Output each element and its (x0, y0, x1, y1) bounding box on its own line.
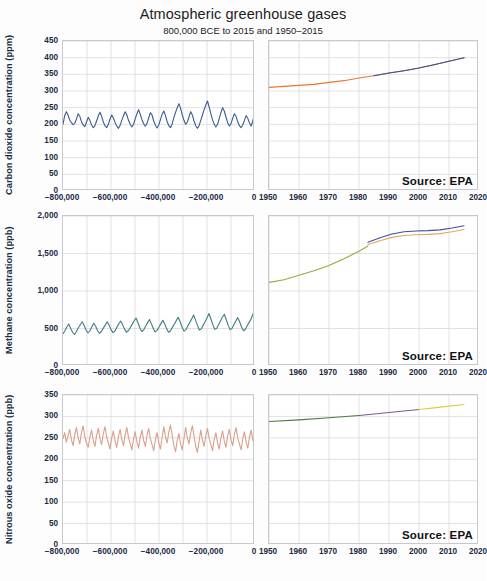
x-tick-label: 1990 (379, 547, 397, 556)
x-tick-label: 0 (252, 368, 257, 377)
x-tick-label: −400,000 (141, 547, 175, 556)
x-tick-label: −800,000 (45, 368, 79, 377)
chart-row-methane: Methane concentration (ppb) 05001,0001,5… (0, 215, 486, 391)
y-axis-label-methane: Methane concentration (ppb) (2, 215, 16, 365)
x-tick-label: −600,000 (93, 368, 127, 377)
x-tick-label: 2010 (439, 547, 457, 556)
x-tick-label: 1980 (349, 547, 367, 556)
x-tick-label: 1970 (319, 193, 337, 202)
y-tick-label: 100 (44, 497, 58, 506)
x-axis-ticks-nitrous-oxide-right: 19501960197019801990200020102020 (268, 545, 478, 561)
chart-row-co2: Carbon dioxide concentration (ppm) 05010… (0, 40, 486, 216)
x-tick-label: 0 (252, 547, 257, 556)
x-tick-label: 1990 (379, 368, 397, 377)
y-tick-label: 500 (44, 323, 58, 332)
x-tick-label: 1960 (289, 368, 307, 377)
panel-nitrous-oxide-modern: Source: EPA (268, 394, 478, 544)
x-tick-label: 1970 (319, 547, 337, 556)
y-tick-label: 2,000 (38, 211, 59, 220)
x-axis-ticks-co2-right: 19501960197019801990200020102020 (268, 191, 478, 207)
x-tick-label: 2000 (409, 547, 427, 556)
y-tick-label: 350 (44, 69, 58, 78)
panel-co2-modern: Source: EPA (268, 40, 478, 190)
x-axis-ticks-methane-left: −800,000−600,000−400,000−200,0000 (62, 366, 254, 382)
y-axis-ticks-co2: 050100150200250300350400450 (16, 40, 60, 190)
x-tick-label: −400,000 (141, 193, 175, 202)
chart-row-nitrous-oxide: Nitrous oxide concentration (ppb) 050100… (0, 394, 486, 570)
x-tick-label: 2010 (439, 193, 457, 202)
y-tick-label: 1,500 (38, 248, 59, 257)
x-tick-label: 2010 (439, 368, 457, 377)
plot-co2-icecore (63, 41, 254, 190)
y-tick-label: 300 (44, 86, 58, 95)
plot-nitrous-oxide-icecore (63, 395, 254, 544)
x-tick-label: 1980 (349, 368, 367, 377)
y-tick-label: 200 (44, 454, 58, 463)
page-subtitle: 800,000 BCE to 2015 and 1950–2015 (0, 25, 486, 36)
source-label-nitrous-oxide: Source: EPA (402, 529, 473, 541)
y-axis-label-nitrous-oxide: Nitrous oxide concentration (ppb) (2, 394, 16, 544)
x-tick-label: 2000 (409, 193, 427, 202)
x-tick-label: 2000 (409, 368, 427, 377)
y-tick-label: 200 (44, 119, 58, 128)
source-label-co2: Source: EPA (402, 175, 473, 187)
x-tick-label: 1960 (289, 193, 307, 202)
y-axis-label-co2: Carbon dioxide concentration (ppm) (2, 40, 16, 190)
y-axis-ticks-nitrous-oxide: 050100150200250300350 (16, 394, 60, 544)
x-tick-label: −200,000 (189, 547, 223, 556)
x-axis-ticks-methane-right: 19501960197019801990200020102020 (268, 366, 478, 382)
x-tick-label: −600,000 (93, 193, 127, 202)
x-tick-label: −400,000 (141, 368, 175, 377)
x-tick-label: 2020 (469, 193, 487, 202)
x-tick-label: −800,000 (45, 547, 79, 556)
y-tick-label: 250 (44, 432, 58, 441)
x-tick-label: 2020 (469, 547, 487, 556)
y-tick-label: 50 (49, 518, 58, 527)
y-tick-label: 150 (44, 475, 58, 484)
x-tick-label: 1960 (289, 547, 307, 556)
x-tick-label: −200,000 (189, 368, 223, 377)
x-tick-label: −200,000 (189, 193, 223, 202)
x-tick-label: 2020 (469, 368, 487, 377)
x-tick-label: 1950 (259, 193, 277, 202)
x-tick-label: 1970 (319, 368, 337, 377)
x-tick-label: 1950 (259, 547, 277, 556)
y-axis-ticks-methane: 05001,0001,5002,000 (16, 215, 60, 365)
x-tick-label: 1980 (349, 193, 367, 202)
y-tick-label: 450 (44, 36, 58, 45)
panel-co2-icecore (62, 40, 254, 190)
y-tick-label: 350 (44, 390, 58, 399)
x-axis-ticks-co2-left: −800,000−600,000−400,000−200,0000 (62, 191, 254, 207)
y-tick-label: 150 (44, 136, 58, 145)
x-tick-label: −600,000 (93, 547, 127, 556)
x-axis-ticks-nitrous-oxide-left: −800,000−600,000−400,000−200,0000 (62, 545, 254, 561)
x-tick-label: 1990 (379, 193, 397, 202)
panel-methane-icecore (62, 215, 254, 365)
source-label-methane: Source: EPA (402, 350, 473, 362)
plot-methane-icecore (63, 216, 254, 365)
page-title: Atmospheric greenhouse gases (0, 6, 486, 22)
y-tick-label: 100 (44, 152, 58, 161)
panel-methane-modern: Source: EPA (268, 215, 478, 365)
plot-methane-modern (269, 216, 478, 365)
plot-co2-modern (269, 41, 478, 190)
x-tick-label: 1950 (259, 368, 277, 377)
y-tick-label: 400 (44, 52, 58, 61)
x-tick-label: 0 (252, 193, 257, 202)
x-tick-label: −800,000 (45, 193, 79, 202)
y-tick-label: 50 (49, 169, 58, 178)
plot-nitrous-oxide-modern (269, 395, 478, 544)
y-tick-label: 250 (44, 102, 58, 111)
panel-nitrous-oxide-icecore (62, 394, 254, 544)
y-tick-label: 1,000 (38, 286, 59, 295)
y-tick-label: 300 (44, 411, 58, 420)
